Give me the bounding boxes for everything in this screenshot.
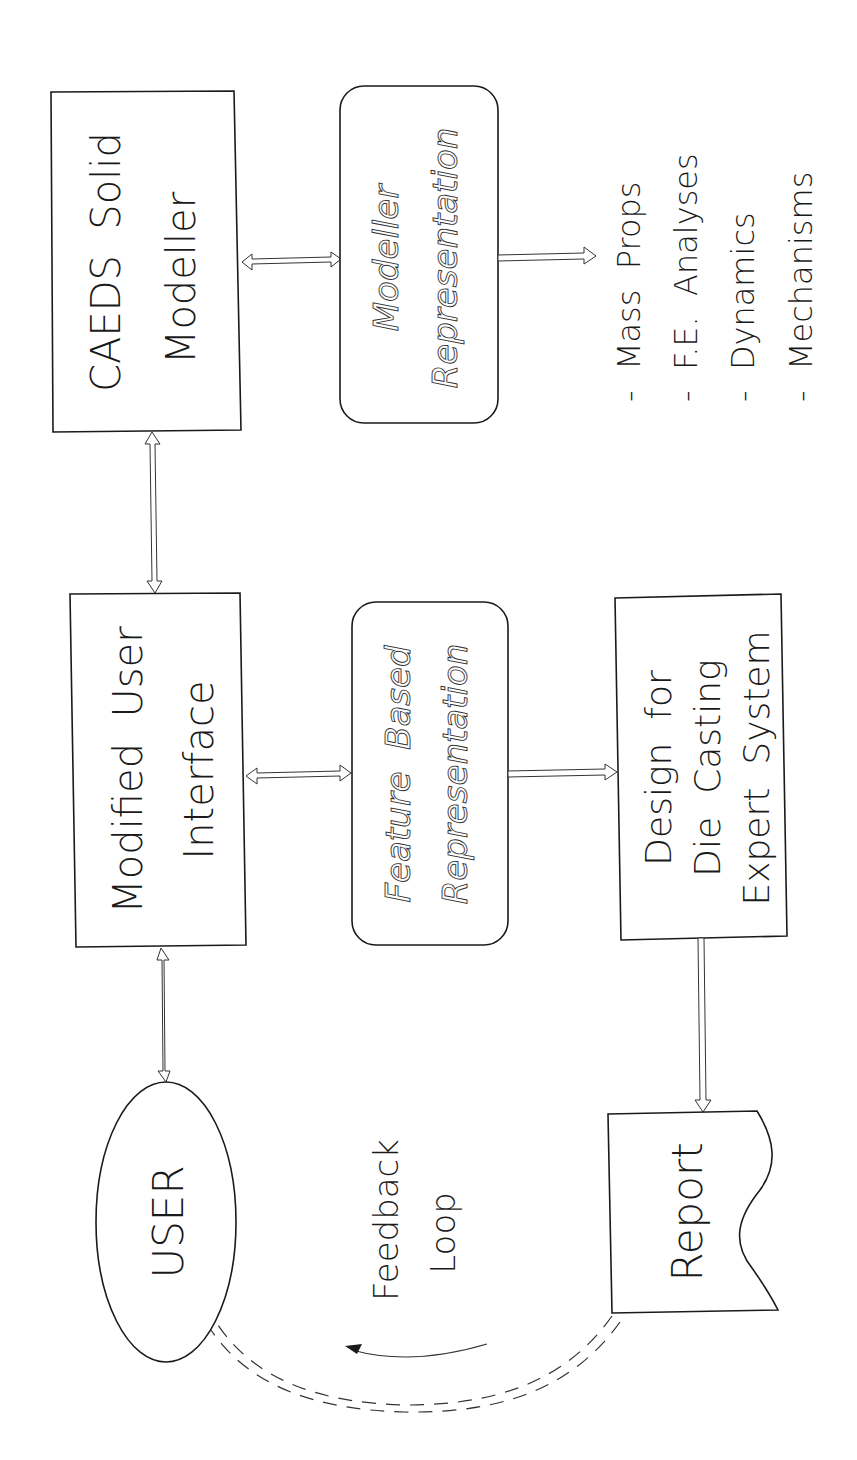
output-item-dynamics: - Dynamics [724, 212, 762, 402]
modeller-rep-label-line2: Representation [425, 128, 465, 389]
user-node: USER [96, 1082, 236, 1362]
bidirectional-arrow-caeds-modeller [242, 252, 341, 270]
dfdc-label-line2: Die Casting [687, 659, 728, 876]
feature-rep-label-line2: Representation [435, 644, 475, 905]
output-item-mass-props: - Mass Props [610, 181, 648, 402]
report-node: Report [608, 1111, 778, 1313]
modeller-representation-node: Modeller Representation [340, 86, 498, 423]
caeds-label-line2: Modeller [158, 191, 204, 364]
dfdc-label-line3: Expert System [736, 630, 777, 905]
modeller-rep-label-line1: Modeller [366, 183, 406, 331]
dfdc-label-line1: Design for [638, 670, 679, 866]
feedback-label-line2: Loop [423, 1192, 463, 1274]
bidirectional-arrow-mui-user [157, 948, 170, 1082]
mui-label-line1: Modified User [105, 626, 151, 914]
caeds-label-line1: CAEDS Solid [83, 132, 129, 392]
design-for-die-casting-expert-system-node: Design for Die Casting Expert System [615, 594, 787, 940]
bidirectional-arrow-mui-feature [246, 765, 351, 784]
feedback-arrowhead-icon [345, 1344, 362, 1354]
output-item-fe-analyses: - F.E. Analyses [667, 153, 705, 402]
dashed-feedback-connector [211, 1316, 620, 1412]
arrow-dfdc-to-report [695, 938, 711, 1112]
analysis-outputs-list: - Mass Props - F.E. Analyses - Dynamics … [610, 153, 820, 402]
feature-based-representation-node: Feature Based Representation [352, 602, 508, 945]
feedback-arrow-curve [352, 1344, 487, 1357]
user-label: USER [144, 1165, 193, 1278]
mui-label-line2: Interface [176, 680, 222, 859]
system-architecture-diagram: CAEDS Solid Modeller Modeller Representa… [0, 0, 857, 1460]
feedback-loop-annotation: Feedback Loop [345, 1139, 487, 1357]
arrow-modeller-to-outputs [498, 247, 596, 264]
output-item-mechanisms: - Mechanisms [782, 172, 820, 402]
feature-rep-label-line1: Feature Based [378, 645, 418, 902]
report-label: Report [663, 1142, 712, 1281]
caeds-solid-modeller-node: CAEDS Solid Modeller [51, 91, 241, 432]
arrow-feature-to-dfdc [508, 764, 617, 780]
modified-user-interface-node: Modified User Interface [70, 593, 246, 947]
feedback-label-line1: Feedback [366, 1139, 406, 1301]
bidirectional-arrow-caeds-mui [145, 432, 162, 593]
